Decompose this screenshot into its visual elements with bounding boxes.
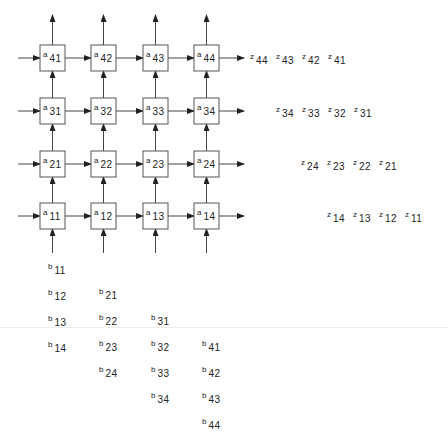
- label-subscript: 21: [49, 159, 61, 170]
- label-base: b: [151, 339, 155, 348]
- label-base: a: [94, 208, 98, 217]
- label-subscript: 23: [333, 161, 345, 172]
- label-subscript: 31: [157, 316, 169, 327]
- label-subscript: 24: [203, 159, 215, 170]
- label-base: z: [302, 52, 306, 61]
- label-subscript: 22: [105, 316, 117, 327]
- output-z32: z32: [328, 106, 344, 116]
- input-b11: b11: [48, 263, 64, 273]
- input-b43: b43: [202, 392, 219, 402]
- output-z34: z34: [276, 106, 292, 116]
- label-base: a: [94, 156, 98, 165]
- input-b34: b34: [151, 392, 168, 402]
- label-base: b: [48, 262, 52, 271]
- label-base: a: [43, 50, 47, 59]
- output-z14: z14: [327, 211, 343, 221]
- label-subscript: 14: [203, 211, 215, 222]
- label-subscript: 13: [54, 317, 66, 328]
- output-z13: z13: [353, 211, 369, 221]
- label-subscript: 11: [49, 211, 60, 222]
- cell-label-a44: a44: [197, 51, 214, 61]
- input-b42: b42: [202, 366, 219, 376]
- label-subscript: 13: [152, 211, 164, 222]
- input-b24: b24: [99, 366, 116, 376]
- label-subscript: 42: [100, 53, 112, 64]
- cell-label-a43: a43: [146, 51, 163, 61]
- cell-label-a41: a41: [43, 51, 60, 61]
- label-base: a: [197, 208, 201, 217]
- label-base: b: [48, 340, 52, 349]
- label-base: b: [202, 365, 206, 374]
- input-b21: b21: [99, 288, 116, 298]
- label-base: z: [276, 52, 280, 61]
- output-z23: z23: [327, 159, 343, 169]
- label-base: z: [354, 105, 358, 114]
- label-subscript: 21: [105, 290, 117, 301]
- label-subscript: 23: [152, 159, 164, 170]
- label-base: z: [379, 210, 383, 219]
- input-b33: b33: [151, 366, 168, 376]
- output-z43: z43: [276, 53, 292, 63]
- label-subscript: 32: [100, 106, 112, 117]
- label-subscript: 42: [208, 368, 220, 379]
- input-b12: b12: [48, 289, 65, 299]
- cell-label-a31: a31: [43, 104, 60, 114]
- label-base: a: [146, 50, 150, 59]
- label-subscript: 12: [385, 213, 397, 224]
- label-base: z: [302, 105, 306, 114]
- output-z12: z12: [379, 211, 395, 221]
- output-z33: z33: [302, 106, 318, 116]
- input-b32: b32: [151, 340, 168, 350]
- label-base: b: [99, 313, 103, 322]
- label-subscript: 33: [152, 106, 164, 117]
- label-base: z: [405, 210, 409, 219]
- label-base: b: [202, 339, 206, 348]
- label-base: z: [353, 158, 357, 167]
- label-subscript: 22: [359, 161, 371, 172]
- output-z24: z24: [301, 159, 317, 169]
- label-base: z: [276, 105, 280, 114]
- label-base: a: [197, 103, 201, 112]
- cell-label-a22: a22: [94, 157, 111, 167]
- cell-label-a24: a24: [197, 157, 214, 167]
- cell-label-a11: a11: [43, 209, 59, 219]
- label-base: z: [301, 158, 305, 167]
- label-base: a: [43, 208, 47, 217]
- label-subscript: 41: [208, 342, 220, 353]
- label-base: a: [43, 156, 47, 165]
- label-base: b: [99, 287, 103, 296]
- label-base: z: [328, 52, 332, 61]
- label-base: a: [146, 156, 150, 165]
- cell-label-a21: a21: [43, 157, 60, 167]
- label-base: a: [197, 50, 201, 59]
- label-subscript: 21: [385, 161, 397, 172]
- output-z21: z21: [379, 159, 395, 169]
- label-subscript: 42: [308, 55, 320, 66]
- cell-label-a32: a32: [94, 104, 111, 114]
- output-z22: z22: [353, 159, 369, 169]
- label-base: b: [151, 313, 155, 322]
- label-subscript: 12: [54, 291, 66, 302]
- label-subscript: 32: [157, 342, 169, 353]
- label-subscript: 32: [334, 108, 346, 119]
- label-base: b: [151, 365, 155, 374]
- output-z41: z41: [328, 53, 344, 63]
- label-subscript: 44: [256, 55, 268, 66]
- output-z42: z42: [302, 53, 318, 63]
- label-subscript: 11: [411, 213, 422, 224]
- cell-label-a12: a12: [94, 209, 111, 219]
- input-b22: b22: [99, 314, 116, 324]
- label-subscript: 14: [333, 213, 345, 224]
- input-b44: b44: [202, 418, 219, 428]
- label-base: b: [99, 339, 103, 348]
- label-subscript: 14: [54, 343, 66, 354]
- output-z11: z11: [405, 211, 420, 221]
- label-subscript: 31: [360, 108, 372, 119]
- input-b31: b31: [151, 314, 168, 324]
- label-base: b: [202, 391, 206, 400]
- label-base: z: [327, 210, 331, 219]
- label-base: z: [379, 158, 383, 167]
- label-subscript: 43: [282, 55, 294, 66]
- cell-label-a14: a14: [197, 209, 214, 219]
- label-base: z: [250, 52, 254, 61]
